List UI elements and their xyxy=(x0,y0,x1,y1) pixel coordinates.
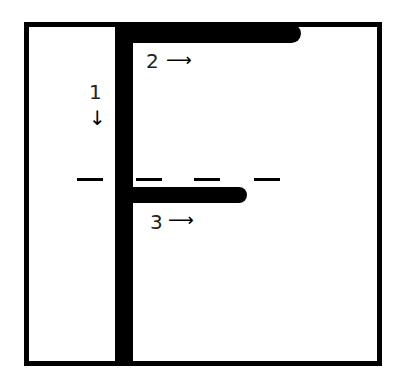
down-arrow-icon: ↓ xyxy=(89,108,106,128)
stroke-1-number: 1 xyxy=(89,82,102,102)
stroke-3-middle-horizontal xyxy=(130,187,247,203)
stroke-2-top-horizontal xyxy=(115,24,301,43)
stroke-3-number: 3 xyxy=(150,212,163,232)
midline-dash xyxy=(254,178,280,181)
midline-dash xyxy=(194,178,220,181)
right-arrow-icon: ⟶ xyxy=(168,211,194,229)
stroke-2-number: 2 xyxy=(146,51,159,71)
midline-dash xyxy=(136,178,162,181)
midline-dash xyxy=(77,178,103,181)
right-arrow-icon: ⟶ xyxy=(166,51,192,69)
